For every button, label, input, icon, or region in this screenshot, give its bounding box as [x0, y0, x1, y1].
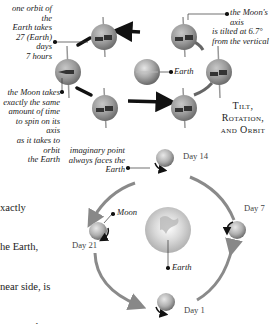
earth-large — [145, 207, 191, 268]
body-paragraph: xactly he Earth, near side, is e, we onl… — [0, 174, 50, 324]
moon-day14 — [155, 149, 174, 170]
body-line: he Earth, — [0, 240, 50, 253]
body-line: xactly — [0, 201, 50, 214]
earth-label-top: Earth — [174, 67, 194, 77]
section-title: Tilt, Rotation, and Orbit — [208, 100, 277, 136]
title-line: Rotation, — [208, 112, 277, 124]
caption-spin-line: to spin on its axis — [0, 117, 60, 136]
caption-orbit-line: 7 hours — [0, 52, 52, 62]
caption-imaginary-point: imaginary point always faces the Earth — [60, 146, 125, 175]
earth-small — [134, 59, 160, 85]
leader-dot-earth-large — [166, 266, 170, 270]
caption-spin-line: the Earth — [0, 155, 60, 165]
earth-label-bottom: Earth — [172, 263, 192, 273]
day1-label: Day 1 — [184, 305, 205, 315]
moon-top-1 — [91, 17, 117, 57]
caption-orbit-line: one orbit of the — [0, 4, 52, 23]
leader-dot-moon — [111, 212, 115, 216]
moon-bottom-1 — [92, 88, 118, 128]
day7-label: Day 7 — [244, 203, 265, 213]
title-line: Tilt, — [208, 100, 277, 112]
caption-spin-line: as it takes to orbit — [0, 136, 60, 155]
caption-orbit: one orbit of the Earth takes 27 (Earth) … — [0, 4, 52, 62]
day21-label: Day 21 — [72, 240, 97, 250]
leader-dot-orbit — [53, 40, 57, 44]
leader-dot-point — [126, 166, 130, 170]
body-line: e, we only — [0, 320, 50, 324]
caption-axis-line: the Moon's axis — [206, 8, 277, 27]
leader-dot-spin — [60, 90, 64, 94]
caption-axis-line: from the vertical — [206, 37, 277, 47]
caption-axis: the Moon's axis is tilted at 6.7° from t… — [206, 8, 277, 46]
caption-point-line: Earth — [60, 165, 125, 175]
moon-top-right — [206, 46, 232, 98]
day14-label: Day 14 — [183, 151, 208, 161]
moon-label: Moon — [117, 208, 137, 218]
moon-day7 — [227, 221, 246, 239]
caption-orbit-line: 27 (Earth) days — [0, 33, 52, 52]
leader-dot-earth — [169, 70, 173, 74]
title-line: and Orbit — [208, 124, 277, 136]
moon-bottom-2 — [171, 88, 197, 128]
caption-spin: the Moon takes exactly the same amount o… — [0, 88, 60, 165]
moon-day1 — [156, 293, 175, 314]
moon-top-2 — [171, 17, 197, 57]
body-line: near side, is — [0, 280, 50, 293]
